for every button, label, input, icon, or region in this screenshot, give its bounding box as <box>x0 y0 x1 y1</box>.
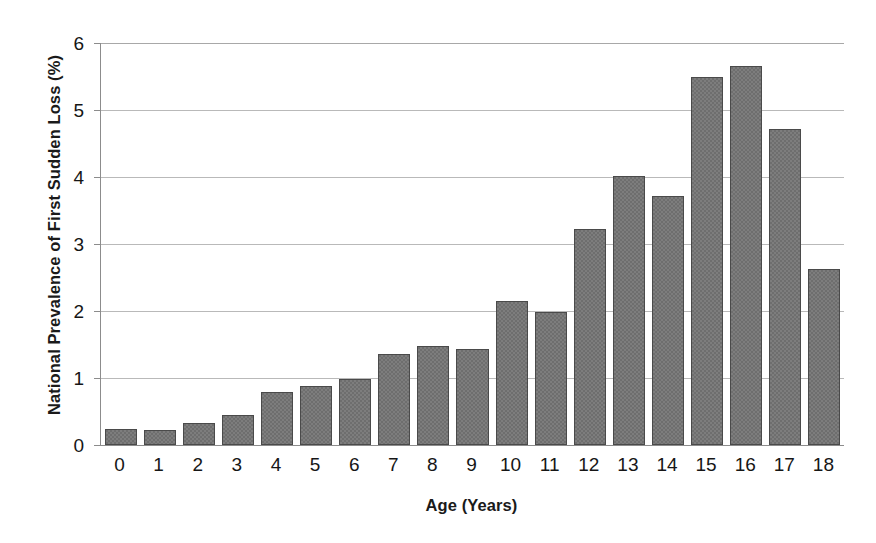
x-axis-tick-label: 8 <box>427 455 438 474</box>
y-axis-tick-label: 0 <box>56 436 84 455</box>
bar <box>769 129 801 445</box>
bar <box>456 349 488 445</box>
y-axis-tick-label: 2 <box>56 302 84 321</box>
y-axis-tick-label: 1 <box>56 369 84 388</box>
x-axis-tick-label: 17 <box>774 455 795 474</box>
plot-area <box>100 43 844 446</box>
y-axis-tickmark <box>94 177 101 178</box>
bar <box>613 176 645 445</box>
bar <box>496 301 528 445</box>
bar <box>261 392 293 445</box>
bar <box>144 430 176 445</box>
x-axis-tick-label: 12 <box>578 455 599 474</box>
y-axis-tickmark <box>94 445 101 446</box>
y-axis-tickmark <box>94 43 101 44</box>
y-axis-tick-label: 5 <box>56 101 84 120</box>
bar <box>300 386 332 445</box>
x-axis-tick-label: 16 <box>735 455 756 474</box>
x-axis-tick-label: 7 <box>388 455 399 474</box>
x-axis-tick-label: 5 <box>310 455 321 474</box>
x-axis-tick-label: 13 <box>617 455 638 474</box>
bar <box>535 312 567 445</box>
bar <box>652 196 684 445</box>
bar <box>222 415 254 445</box>
y-axis-tickmark <box>94 110 101 111</box>
y-axis-tickmark <box>94 311 101 312</box>
bar <box>339 379 371 445</box>
y-axis-tick-label: 4 <box>56 168 84 187</box>
x-axis-tick-label: 3 <box>232 455 243 474</box>
x-axis-tick-label: 4 <box>271 455 282 474</box>
y-axis-tickmark <box>94 244 101 245</box>
x-axis-tick-label: 15 <box>696 455 717 474</box>
bar <box>183 423 215 445</box>
bar <box>574 229 606 445</box>
x-axis-tick-label: 0 <box>114 455 125 474</box>
y-axis-tick-label: 6 <box>56 34 84 53</box>
x-axis-tick-labels: 0123456789101112131415161718 <box>100 455 843 485</box>
bar <box>378 354 410 445</box>
x-axis-tick-label: 11 <box>540 455 560 474</box>
x-axis-tick-label: 9 <box>466 455 477 474</box>
y-axis-tick-label: 3 <box>56 235 84 254</box>
bar-series <box>101 43 844 445</box>
x-axis-tick-label: 1 <box>153 455 164 474</box>
x-axis-tick-label: 10 <box>500 455 521 474</box>
x-axis-tick-label: 18 <box>813 455 834 474</box>
x-axis-tick-label: 2 <box>192 455 203 474</box>
y-axis-tickmark <box>94 378 101 379</box>
x-axis-tick-label: 14 <box>656 455 677 474</box>
x-axis-tick-label: 6 <box>349 455 360 474</box>
x-axis-title: Age (Years) <box>100 496 843 515</box>
bar <box>691 77 723 446</box>
bar <box>730 66 762 445</box>
y-axis-tick-labels: 0123456 <box>52 0 84 543</box>
bar <box>105 429 137 445</box>
bar <box>417 346 449 445</box>
bar <box>808 269 840 445</box>
chart-figure: National Prevalence of First Sudden Loss… <box>0 0 876 543</box>
